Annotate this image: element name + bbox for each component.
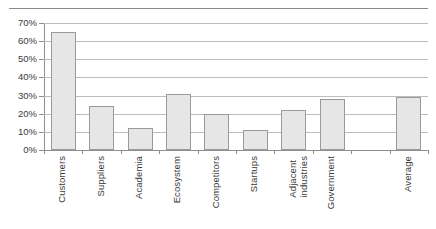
bar-chart: 0%10%20%30%40%50%60%70% CustomersSupplie… — [0, 0, 436, 229]
top-divider-rule — [9, 8, 428, 9]
bar — [281, 110, 306, 150]
y-axis-labels: 0%10%20%30%40%50%60%70% — [0, 0, 37, 229]
y-axis-tick — [39, 96, 44, 97]
y-axis-tick-label: 40% — [3, 72, 37, 82]
gridline — [44, 77, 428, 78]
y-axis-tick-label: 50% — [3, 54, 37, 64]
x-axis-tick — [428, 150, 429, 154]
x-axis-tick — [159, 150, 160, 154]
y-axis-tick — [39, 59, 44, 60]
bar — [51, 32, 76, 150]
bar — [204, 114, 229, 150]
bar — [128, 128, 153, 150]
x-axis-category-label: Competitors — [211, 156, 222, 208]
gridline — [44, 59, 428, 60]
gridline — [44, 23, 428, 24]
x-axis-tick — [351, 150, 352, 154]
plot-area — [44, 23, 428, 150]
bar — [320, 99, 345, 150]
y-axis-tick — [39, 132, 44, 133]
y-axis-tick-label: 10% — [3, 127, 37, 137]
y-axis-tick — [39, 23, 44, 24]
x-axis-tick — [82, 150, 83, 154]
x-axis-tick — [198, 150, 199, 154]
bar — [166, 94, 191, 150]
x-axis-tick — [121, 150, 122, 154]
y-axis-tick — [39, 114, 44, 115]
x-axis-category-label: Startups — [249, 156, 260, 192]
x-axis-tick — [390, 150, 391, 154]
bar — [89, 106, 114, 150]
x-axis-category-label: Adjacent industries — [288, 156, 309, 198]
x-axis-category-label: Customers — [57, 156, 68, 203]
x-axis-tick — [313, 150, 314, 154]
x-axis-category-label: Suppliers — [96, 156, 107, 197]
gridline — [44, 96, 428, 97]
x-axis-tick — [274, 150, 275, 154]
bar — [396, 97, 421, 150]
y-axis-tick-label: 60% — [3, 36, 37, 46]
x-axis-tick — [236, 150, 237, 154]
y-axis-tick — [39, 77, 44, 78]
y-axis-tick-label: 20% — [3, 109, 37, 119]
y-axis-tick — [39, 41, 44, 42]
gridline — [44, 41, 428, 42]
y-axis-tick-label: 0% — [3, 145, 37, 155]
x-axis-category-label: Ecosystem — [172, 156, 183, 203]
x-axis-category-label: Government — [326, 156, 337, 209]
y-axis-tick-label: 70% — [3, 18, 37, 28]
y-axis-tick-label: 30% — [3, 91, 37, 101]
bar — [243, 130, 268, 150]
x-axis-category-label: Academia — [134, 156, 145, 199]
x-axis-tick — [44, 150, 45, 154]
x-axis-category-label: Average — [403, 156, 414, 192]
y-axis-tick — [39, 150, 44, 151]
